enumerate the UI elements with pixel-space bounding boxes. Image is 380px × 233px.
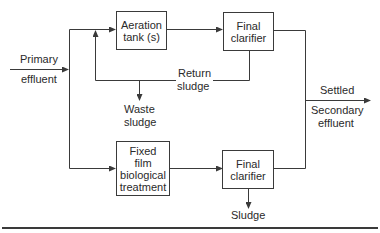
bottom-rule <box>2 227 378 229</box>
final-clarifier-top-box: Final clarifier <box>223 12 274 51</box>
aeration-label-2: tank (s) <box>121 31 162 43</box>
fixed-film-label-1: Fixed <box>120 145 166 157</box>
fixed-film-label-4: treatment <box>120 181 166 193</box>
aeration-tank-box: Aeration tank (s) <box>116 11 167 50</box>
fixed-film-label-3: biological <box>120 169 166 181</box>
sludge-label: Sludge <box>231 209 265 222</box>
fixed-film-box: Fixed film biological treatment <box>116 141 170 196</box>
final-clarifier-bottom-box: Final clarifier <box>222 150 274 189</box>
waste-label: Waste <box>124 103 155 116</box>
clarifier-top-label-2: clarifier <box>231 32 266 44</box>
secondary-label: Secondary <box>311 104 364 117</box>
clarifier-bottom-label-2: clarifier <box>230 170 265 182</box>
effluent-label: effluent <box>21 73 57 86</box>
aeration-label-1: Aeration <box>121 19 162 31</box>
waste-sludge-label: sludge <box>124 116 156 129</box>
secondary-effluent-label: effluent <box>318 117 354 130</box>
return-label: Return <box>178 67 211 80</box>
return-sludge-label: sludge <box>177 80 209 93</box>
clarifier-top-label-1: Final <box>231 20 266 32</box>
clarifier-bottom-label-1: Final <box>230 158 265 170</box>
primary-label: Primary <box>20 53 58 66</box>
settled-label: Settled <box>320 84 354 97</box>
fixed-film-label-2: film <box>120 157 166 169</box>
